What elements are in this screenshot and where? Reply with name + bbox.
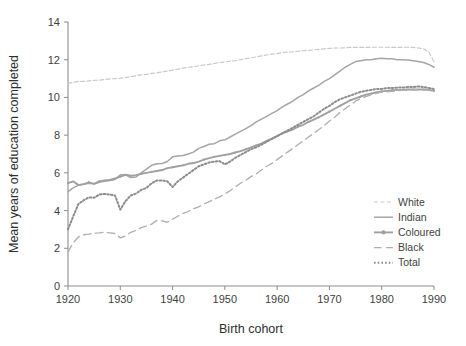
legend-label-indian: Indian [398, 211, 427, 223]
series-marker-coloured [213, 156, 215, 158]
line-chart: 02468101214 1920193019401950196019701980… [0, 0, 466, 346]
axis-lines [68, 22, 434, 286]
series-marker-coloured [172, 166, 174, 168]
y-tick-label: 14 [48, 16, 60, 28]
y-axis-title: Mean years of education completed [7, 55, 21, 253]
series-line-black [68, 90, 434, 252]
x-tick-label: 1960 [265, 293, 289, 305]
chart-legend: WhiteIndianColouredBlackTotal [374, 196, 441, 269]
legend-label-white: White [398, 196, 425, 208]
y-tick-label: 4 [54, 205, 60, 217]
series-marker-coloured [130, 175, 132, 177]
series-marker-coloured [119, 176, 121, 178]
series-marker-coloured [98, 180, 100, 182]
series-marker-coloured [307, 121, 309, 123]
series-marker-coloured [433, 90, 435, 92]
series-layer [67, 47, 435, 252]
y-tick-label: 12 [48, 54, 60, 66]
x-axis-title: Birth cohort [219, 322, 283, 336]
series-marker-coloured [203, 159, 205, 161]
x-tick-label: 1940 [160, 293, 184, 305]
series-marker-coloured [245, 148, 247, 150]
series-marker-coloured [88, 181, 90, 183]
chart-container: 02468101214 1920193019401950196019701980… [0, 0, 466, 346]
x-axis-tick-labels: 19201930194019501960197019801990 [56, 293, 446, 305]
y-tick-label: 8 [54, 129, 60, 141]
series-marker-coloured [339, 105, 341, 107]
series-line-coloured [68, 90, 434, 186]
legend-label-black: Black [398, 241, 424, 253]
series-marker-coloured [161, 169, 163, 171]
legend-label-coloured: Coloured [398, 226, 441, 238]
series-marker-coloured [349, 99, 351, 101]
y-tick-label: 0 [54, 280, 60, 292]
series-marker-coloured [255, 144, 257, 146]
series-marker-coloured [224, 154, 226, 156]
series-line-white [68, 47, 434, 83]
x-tick-label: 1970 [317, 293, 341, 305]
series-marker-coloured [151, 171, 153, 173]
series-marker-coloured [140, 173, 142, 175]
series-marker-coloured [182, 164, 184, 166]
x-tick-label: 1990 [422, 293, 446, 305]
x-tick-label: 1950 [213, 293, 237, 305]
series-marker-coloured [328, 111, 330, 113]
series-marker-coloured [192, 162, 194, 164]
y-axis-tick-labels: 02468101214 [48, 16, 60, 292]
series-marker-coloured [67, 182, 69, 184]
x-tick-label: 1930 [108, 293, 132, 305]
series-line-total [68, 86, 434, 229]
y-tick-label: 6 [54, 167, 60, 179]
x-tick-label: 1980 [369, 293, 393, 305]
series-marker-coloured [318, 116, 320, 118]
series-marker-coloured [77, 184, 79, 186]
legend-marker-coloured [381, 230, 385, 234]
y-tick-label: 10 [48, 91, 60, 103]
series-marker-coloured [360, 95, 362, 97]
y-tick-label: 2 [54, 242, 60, 254]
series-marker-coloured [109, 179, 111, 181]
tick-marks [64, 22, 434, 290]
x-tick-label: 1920 [56, 293, 80, 305]
legend-label-total: Total [398, 256, 420, 268]
series-marker-coloured [234, 151, 236, 153]
